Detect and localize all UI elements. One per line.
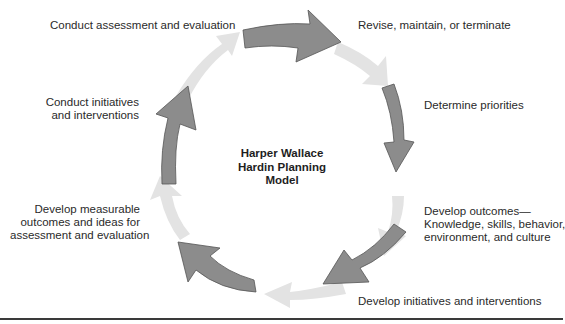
bottom-divider [0,318,563,320]
step-label-priorities: Determine priorities [424,99,524,112]
step-label-conduct-assessment: Conduct assessment and evaluation [50,19,235,32]
step-text: Conduct assessment and evaluation [50,19,235,31]
step-text-line: Knowledge, skills, behavior, [424,218,565,231]
step-text: Revise, maintain, or terminate [358,19,511,31]
dark-arrow-lower-right-icon [323,224,406,284]
title-line: Harper Wallace [232,147,332,161]
step-text: Determine priorities [424,99,524,111]
step-label-revise: Revise, maintain, or terminate [358,19,511,32]
step-text-line: assessment and evaluation [10,229,140,242]
step-label-conduct-initiatives: Conduct initiatives and interventions [30,96,139,122]
diagram-title: Harper Wallace Hardin Planning Model [232,147,332,188]
step-text-line: Develop measurable [10,203,140,216]
dark-arrow-left-icon [156,86,196,184]
step-text-line: and interventions [30,109,139,122]
step-text-line: environment, and culture [424,231,565,244]
title-line: Model [232,174,332,188]
step-text: Develop initiatives and interventions [358,295,541,307]
step-label-initiatives: Develop initiatives and interventions [358,295,541,308]
dark-arrow-lower-left-icon [178,242,256,292]
step-text-line: outcomes and ideas for [10,216,140,229]
title-line: Hardin Planning [232,161,332,175]
light-arrow-upper-right-icon [334,42,388,86]
step-text-line: Develop outcomes— [424,205,565,218]
step-label-measurable: Develop measurable outcomes and ideas fo… [10,203,140,242]
dark-arrow-top-icon [243,10,341,62]
light-arrow-left-icon [150,176,190,240]
step-text-line: Conduct initiatives [30,96,139,109]
step-label-outcomes: Develop outcomes— Knowledge, skills, beh… [424,205,565,244]
light-arrow-bottom-icon [264,282,346,308]
dark-arrow-right-icon [382,84,414,172]
